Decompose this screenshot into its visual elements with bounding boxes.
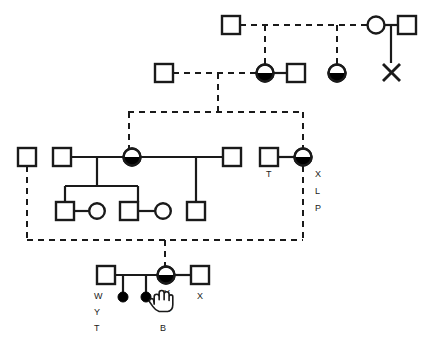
g4-male-3[interactable] [187, 202, 205, 220]
label-son-T: T [94, 323, 100, 333]
label-son-Y: Y [94, 307, 100, 317]
g2-female-carrier-1[interactable] [257, 65, 274, 82]
g3-male-T[interactable] [260, 148, 278, 166]
label-carrier-X: X [315, 169, 321, 179]
label-partner-X: X [197, 291, 203, 301]
g5-male-W[interactable] [97, 266, 115, 284]
pedigree-diagram: T X L P W Y [0, 0, 431, 354]
g1-male-2[interactable] [398, 16, 416, 34]
label-carrier-L: L [315, 186, 320, 196]
hand-cursor-icon [149, 290, 172, 311]
g3-male-outer-left[interactable] [18, 148, 36, 166]
g2-male-2[interactable] [287, 64, 305, 82]
g3-male-1[interactable] [53, 148, 71, 166]
g3-male-2[interactable] [223, 148, 241, 166]
g4-male-1[interactable] [56, 202, 74, 220]
g5-dashed-sibship-bus [27, 240, 303, 266]
g3-dashed-sibship-bus [128, 112, 303, 148]
pedigree-svg: T X L P W Y [0, 0, 431, 354]
deceased-cross-icon[interactable] [383, 64, 400, 81]
label-partner-T: T [266, 169, 272, 179]
g2-male-1[interactable] [155, 64, 173, 82]
label-child-B: B [160, 323, 166, 333]
g1-male-1[interactable] [222, 16, 240, 34]
g5-female-carrier[interactable] [158, 267, 175, 284]
g4-female-1[interactable] [89, 203, 105, 219]
g4-male-2[interactable] [120, 202, 138, 220]
g3-female-carrier-right[interactable] [295, 149, 312, 166]
g4-female-2[interactable] [155, 203, 171, 219]
g2-female-carrier-2[interactable] [329, 65, 346, 82]
label-carrier-P: P [315, 203, 321, 213]
g3-female-carrier-proband[interactable] [124, 149, 141, 166]
g5-male-X[interactable] [191, 266, 209, 284]
g5-affected-child-1[interactable] [118, 292, 128, 302]
g1-female-1[interactable] [368, 17, 385, 34]
label-son-W: W [94, 291, 103, 301]
